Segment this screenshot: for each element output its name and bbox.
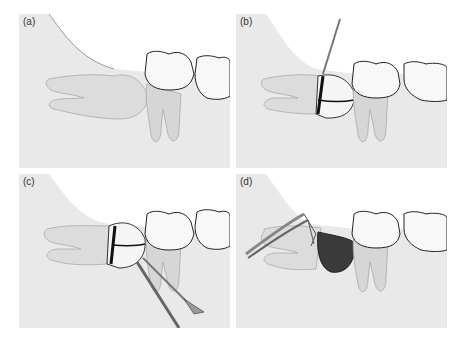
panel-a: (a) — [19, 14, 230, 168]
panel-d: (d) — [236, 174, 447, 328]
panel-c: (c) — [19, 174, 230, 328]
panel-b: (b) — [236, 14, 447, 168]
panel-label-d: (d) — [240, 176, 252, 187]
impacted-tooth-illustration — [19, 14, 230, 168]
panel-label-c: (c) — [23, 176, 35, 187]
panel-label-b: (b) — [240, 16, 252, 27]
panel-label-a: (a) — [23, 16, 35, 27]
root-removal-illustration — [236, 174, 447, 328]
bur-sectioning-illustration — [236, 14, 447, 168]
elevator-separation-illustration — [19, 174, 230, 328]
